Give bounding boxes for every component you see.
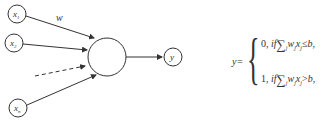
edge-dashed-ellipsis — [35, 66, 85, 76]
edge-xn — [27, 75, 96, 105]
output-y-label: y — [169, 52, 174, 62]
step-function-formula: y= { 0, if∑jwjxj≤b, 1, if∑jwjxj>b, — [232, 28, 321, 94]
input-node-xn: xn — [9, 99, 27, 117]
edge-x2 — [23, 44, 87, 50]
formula-lhs: y= — [232, 56, 243, 67]
sum-symbol: ∑ — [277, 72, 286, 87]
neuron-body — [88, 38, 126, 76]
left-brace: { — [247, 30, 260, 88]
formula-case-1: 1, if∑jwjxj>b, — [261, 72, 315, 88]
weight-label: w — [56, 12, 63, 23]
formula-case-0: 0, if∑jwjxj≤b, — [261, 37, 315, 53]
sum-symbol: ∑ — [277, 37, 286, 52]
output-node-y: y — [164, 48, 182, 66]
input-node-x1: x1 — [8, 5, 26, 23]
input-node-x2: x2 — [5, 34, 23, 52]
